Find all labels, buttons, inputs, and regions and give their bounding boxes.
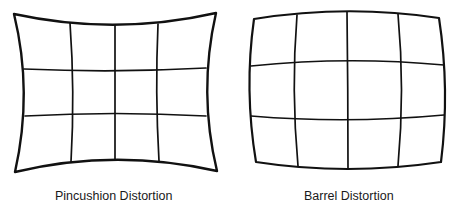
pincushion-grid bbox=[14, 13, 217, 172]
barrel-vline-2 bbox=[347, 12, 348, 169]
pincushion-vline-1 bbox=[70, 23, 73, 162]
pincushion-vline-3 bbox=[157, 24, 159, 161]
pincushion-caption: Pincushion Distortion bbox=[55, 189, 172, 203]
barrel-caption: Barrel Distortion bbox=[304, 189, 394, 203]
barrel-grid bbox=[249, 11, 445, 169]
distortion-diagram bbox=[0, 0, 452, 218]
barrel-vline-3 bbox=[398, 14, 402, 166]
barrel-vline-1 bbox=[294, 15, 298, 166]
